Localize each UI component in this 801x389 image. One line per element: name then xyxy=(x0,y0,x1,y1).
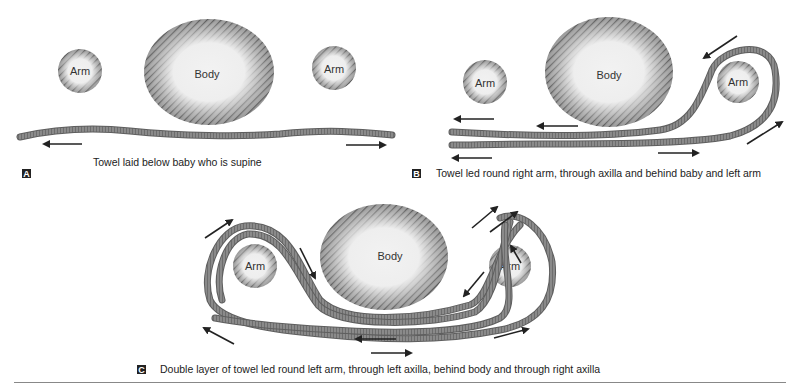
left-arm-label: Arm xyxy=(245,260,265,272)
left-arm-shape: Arm xyxy=(58,49,102,93)
body-shape: Body xyxy=(144,19,274,125)
caption-c: Double layer of towel led round left arm… xyxy=(160,363,600,375)
arrow xyxy=(472,207,497,228)
left-arm-shape: Arm xyxy=(463,60,507,104)
right-arm-label: Arm xyxy=(728,76,748,88)
caption-a: Towel laid below baby who is supine xyxy=(93,156,262,168)
body-shape: Body xyxy=(545,17,673,127)
arrow xyxy=(204,328,234,344)
towel-technique-diagram: Arm Body Arm Towel laid below baby who i… xyxy=(0,0,801,389)
svg-text:C: C xyxy=(138,365,145,375)
divider xyxy=(14,382,786,383)
left-arm-shape: Arm xyxy=(233,244,277,288)
panel-letter-a: A xyxy=(22,169,31,179)
panel-letter-c: C xyxy=(137,365,146,375)
caption-b: Towel led round right arm, through axill… xyxy=(436,167,761,179)
panel-c: Arm Body Arm xyxy=(137,204,600,375)
svg-text:A: A xyxy=(23,169,30,179)
right-arm-shape: Arm xyxy=(717,61,759,103)
body-label: Body xyxy=(194,68,220,80)
panel-letter-b: B xyxy=(412,169,421,179)
svg-text:B: B xyxy=(413,169,420,179)
body-shape: Body xyxy=(320,204,448,310)
left-arm-label: Arm xyxy=(70,65,90,77)
panel-b: Arm Body Arm B Towel led round right arm… xyxy=(412,17,782,179)
panel-a: Arm Body Arm Towel laid below baby who i… xyxy=(20,19,392,179)
body-label: Body xyxy=(377,250,403,262)
left-arm-label: Arm xyxy=(475,77,495,89)
right-arm-shape: Arm xyxy=(312,46,356,90)
right-arm-label: Arm xyxy=(324,63,344,75)
body-label: Body xyxy=(596,69,622,81)
